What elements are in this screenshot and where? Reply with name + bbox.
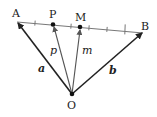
label-p: P — [49, 8, 57, 21]
label-vector-m: m — [82, 44, 92, 57]
point-m — [78, 25, 83, 30]
label-vector-p: p — [50, 44, 57, 57]
point-p — [51, 22, 56, 27]
vector-b — [72, 33, 142, 94]
vector-m — [72, 30, 80, 94]
label-vector-b: b — [109, 64, 117, 77]
vector-diagram: A P M B O a b p m — [0, 0, 157, 117]
vector-p — [54, 27, 72, 94]
label-o: O — [67, 99, 76, 112]
point-o — [70, 92, 75, 97]
label-m: M — [75, 11, 86, 24]
vector-a — [18, 23, 72, 94]
label-b: B — [141, 20, 149, 33]
label-a: A — [11, 7, 21, 20]
label-vector-a: a — [38, 62, 45, 75]
